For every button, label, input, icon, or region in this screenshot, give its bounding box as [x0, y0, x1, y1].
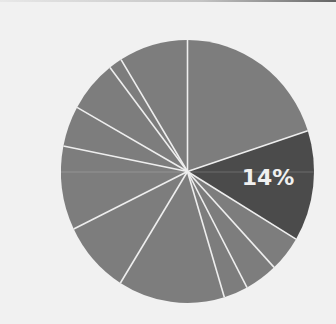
pie-chart: 14% — [0, 0, 336, 324]
slice-percentage-label: 14% — [242, 165, 295, 190]
